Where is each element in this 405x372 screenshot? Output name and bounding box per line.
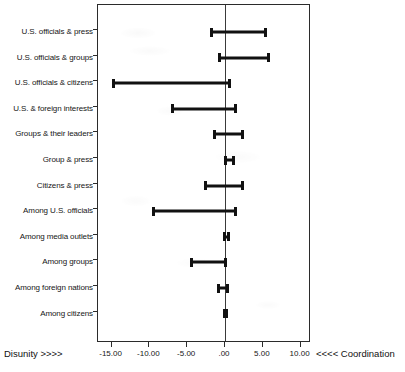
category-label: U.S. officials & citizens (0, 78, 93, 87)
value-tick (186, 342, 187, 347)
interval-cap-low (213, 130, 216, 139)
plot-area (97, 4, 310, 342)
category-label: Among media outlets (0, 231, 93, 240)
category-label: Among citizens (0, 308, 93, 317)
value-tick-label: .00 (218, 349, 229, 359)
interval-bar (210, 31, 267, 34)
value-tick (148, 342, 149, 347)
interval-bar (171, 107, 237, 110)
category-tick (93, 80, 97, 81)
interval-cap-high (241, 130, 244, 139)
interval-cap-high (232, 156, 235, 165)
category-tick (93, 259, 97, 260)
interval-cap-high (224, 258, 227, 267)
interval-cap-high (225, 309, 228, 318)
interval-cap-low (112, 79, 115, 88)
interval-bar (204, 184, 244, 187)
category-label: Among groups (0, 257, 93, 266)
interval-bar (213, 133, 244, 136)
category-tick (93, 131, 97, 132)
value-tick-label: 5.00 (254, 349, 270, 359)
value-tick (224, 342, 225, 347)
value-tick (300, 342, 301, 347)
interval-cap-high (264, 28, 267, 37)
interval-bar (223, 235, 230, 238)
category-label: Citizens & press (0, 180, 93, 189)
category-label: U.S. officials & groups (0, 52, 93, 61)
interval-cap-low (204, 181, 207, 190)
axis-caption-coordination: <<<< Coordination (316, 348, 395, 360)
value-tick-label: -10.00 (137, 349, 160, 359)
category-label: Group & press (0, 155, 93, 164)
interval-cap-high (234, 207, 237, 216)
category-tick (93, 106, 97, 107)
interval-bar (190, 261, 227, 264)
interval-cap-low (218, 53, 221, 62)
interval-cap-low (210, 28, 213, 37)
value-tick-label: -5.00 (177, 349, 195, 359)
interval-cap-low (224, 156, 227, 165)
interval-cap-high (228, 79, 231, 88)
interval-bar (152, 210, 237, 213)
interval-bar (224, 159, 235, 162)
interval-bar (217, 287, 228, 290)
interval-cap-high (241, 181, 244, 190)
interval-bar (112, 82, 231, 85)
interval-cap-low (217, 284, 220, 293)
category-tick (93, 208, 97, 209)
category-label: Among U.S. officials (0, 206, 93, 215)
category-tick (93, 311, 97, 312)
paper-texture (98, 5, 309, 341)
value-tick-label: 10.00 (290, 349, 310, 359)
value-tick (262, 342, 263, 347)
category-tick (93, 285, 97, 286)
category-tick (93, 29, 97, 30)
category-label: U.S. & foreign interests (0, 103, 93, 112)
category-tick (93, 55, 97, 56)
category-tick (93, 157, 97, 158)
category-label: U.S. officials & press (0, 27, 93, 36)
interval-bar (218, 56, 270, 59)
interval-cap-high (267, 53, 270, 62)
interval-cap-high (234, 104, 237, 113)
interval-cap-high (226, 284, 229, 293)
interval-cap-low (223, 232, 226, 241)
value-tick (111, 342, 112, 347)
axis-caption-disunity: Disunity >>>> (4, 348, 63, 360)
interval-bar (223, 312, 228, 315)
category-tick (93, 183, 97, 184)
interval-cap-high (227, 232, 230, 241)
value-tick-label: -15.00 (99, 349, 122, 359)
interval-plot: U.S. officials & pressU.S. officials & g… (0, 0, 405, 372)
interval-cap-low (190, 258, 193, 267)
interval-cap-low (152, 207, 155, 216)
category-tick (93, 234, 97, 235)
category-label: Groups & their leaders (0, 129, 93, 138)
interval-cap-low (171, 104, 174, 113)
category-label: Among foreign nations (0, 283, 93, 292)
